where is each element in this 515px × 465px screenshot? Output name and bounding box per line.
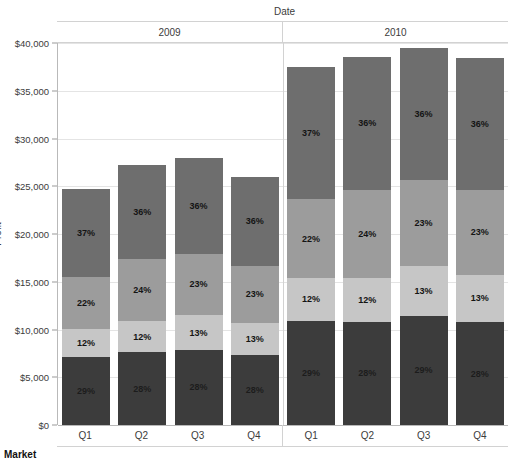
bar-segment-segment-2[interactable]: 13% <box>231 323 279 355</box>
bar-segment-segment-2[interactable]: 13% <box>456 275 504 323</box>
y-axis: Profit $0$5,000$10,000$15,000$20,000$25,… <box>0 43 57 425</box>
year-header-label: 2009 <box>158 27 180 38</box>
segment-percent-label: 28% <box>190 382 208 392</box>
y-tick-label: $5,000 <box>20 372 49 383</box>
bar-segment-segment-4[interactable]: 36% <box>231 177 279 266</box>
bar-segment-segment-2[interactable]: 12% <box>287 278 335 321</box>
segment-percent-label: 22% <box>302 234 320 244</box>
stacked-bar-chart: Date 20092010 Profit $0$5,000$10,000$15,… <box>0 0 515 465</box>
bar-segment-segment-3[interactable]: 22% <box>287 199 335 278</box>
bar-segment-segment-1[interactable]: 29% <box>287 321 335 425</box>
bar-segment-segment-3[interactable]: 22% <box>62 277 110 329</box>
segment-percent-label: 28% <box>471 369 489 379</box>
x-tick-2009-Q1[interactable]: Q1 <box>57 425 113 446</box>
segment-percent-label: 12% <box>358 295 376 305</box>
bar-segment-segment-3[interactable]: 24% <box>343 190 391 278</box>
x-tick-2010-Q1[interactable]: Q1 <box>283 425 339 446</box>
bar-2010-Q1[interactable]: 37%22%12%29% <box>287 67 335 425</box>
bar-segment-segment-3[interactable]: 23% <box>231 266 279 323</box>
segment-percent-label: 37% <box>77 228 95 238</box>
bar-segment-segment-1[interactable]: 28% <box>231 355 279 425</box>
year-header-2010[interactable]: 2010 <box>282 22 508 42</box>
y-tick-label: $30,000 <box>15 133 49 144</box>
date-field-label: Date <box>0 6 515 17</box>
bar-2009-Q1[interactable]: 37%22%12%29% <box>62 189 110 425</box>
year-group-2010: 37%22%12%29%36%24%12%28%36%23%13%29%36%2… <box>283 43 508 425</box>
segment-percent-label: 13% <box>471 293 489 303</box>
segment-percent-label: 24% <box>358 229 376 239</box>
x-tick-2009-Q4[interactable]: Q4 <box>226 425 282 446</box>
bar-segment-segment-2[interactable]: 12% <box>62 329 110 357</box>
segment-percent-label: 37% <box>302 128 320 138</box>
x-tick-2009-Q3[interactable]: Q3 <box>170 425 226 446</box>
bar-segment-segment-3[interactable]: 24% <box>118 259 166 322</box>
segment-percent-label: 13% <box>190 328 208 338</box>
bar-2009-Q4[interactable]: 36%23%13%28% <box>231 177 279 425</box>
segment-percent-label: 23% <box>471 227 489 237</box>
segment-percent-label: 29% <box>302 368 320 378</box>
y-tick-label: $0 <box>38 420 49 431</box>
segment-percent-label: 36% <box>471 119 489 129</box>
bar-segment-segment-4[interactable]: 36% <box>343 57 391 189</box>
bar-segment-segment-2[interactable]: 12% <box>343 278 391 322</box>
bar-segment-segment-2[interactable]: 12% <box>118 321 166 352</box>
bar-segment-segment-1[interactable]: 29% <box>62 357 110 425</box>
segment-percent-label: 36% <box>190 201 208 211</box>
segment-percent-label: 23% <box>190 279 208 289</box>
bar-2009-Q2[interactable]: 36%24%12%28% <box>118 165 166 425</box>
segment-percent-label: 12% <box>302 294 320 304</box>
segment-percent-label: 13% <box>415 286 433 296</box>
bar-segment-segment-2[interactable]: 13% <box>175 315 223 350</box>
bar-segment-segment-4[interactable]: 36% <box>456 58 504 190</box>
bar-2010-Q4[interactable]: 36%23%13%28% <box>456 58 504 425</box>
bar-segment-segment-4[interactable]: 37% <box>62 189 110 276</box>
x-year-group-2009: Q1Q2Q3Q4 <box>57 425 282 446</box>
date-field-label-text: Date <box>274 6 295 17</box>
bar-slot: 36%23%13%28% <box>171 43 227 425</box>
year-header-2009[interactable]: 2009 <box>57 22 282 42</box>
bar-2009-Q3[interactable]: 36%23%13%28% <box>175 158 223 425</box>
segment-percent-label: 36% <box>246 216 264 226</box>
x-axis: Q1Q2Q3Q4Q1Q2Q3Q4 <box>57 425 508 447</box>
bar-segment-segment-4[interactable]: 36% <box>175 158 223 254</box>
segment-percent-label: 13% <box>246 334 264 344</box>
y-tick-label: $10,000 <box>15 324 49 335</box>
segment-percent-label: 28% <box>358 368 376 378</box>
bar-2010-Q3[interactable]: 36%23%13%29% <box>400 48 448 425</box>
segment-percent-label: 24% <box>133 285 151 295</box>
bar-segment-segment-3[interactable]: 23% <box>175 254 223 316</box>
bar-slot: 36%24%12%28% <box>339 43 395 425</box>
bar-slot: 36%24%12%28% <box>114 43 170 425</box>
bar-slot: 37%22%12%29% <box>58 43 114 425</box>
plot-area: 37%22%12%29%36%24%12%28%36%23%13%28%36%2… <box>57 43 508 425</box>
bar-segment-segment-3[interactable]: 23% <box>400 180 448 267</box>
x-year-group-2010: Q1Q2Q3Q4 <box>282 425 508 446</box>
bar-segment-segment-2[interactable]: 13% <box>400 266 448 315</box>
x-tick-2009-Q2[interactable]: Q2 <box>113 425 169 446</box>
x-tick-2010-Q2[interactable]: Q2 <box>339 425 395 446</box>
bar-2010-Q2[interactable]: 36%24%12%28% <box>343 57 391 425</box>
segment-percent-label: 23% <box>415 218 433 228</box>
segment-percent-label: 29% <box>415 365 433 375</box>
y-tick-label: $25,000 <box>15 181 49 192</box>
bar-segment-segment-1[interactable]: 28% <box>456 322 504 425</box>
segment-percent-label: 28% <box>246 385 264 395</box>
year-header-label: 2010 <box>384 27 406 38</box>
bar-segment-segment-1[interactable]: 28% <box>343 322 391 425</box>
segment-percent-label: 29% <box>77 386 95 396</box>
bar-segment-segment-4[interactable]: 37% <box>287 67 335 199</box>
bar-segment-segment-1[interactable]: 28% <box>175 350 223 425</box>
bar-slot: 37%22%12%29% <box>283 43 339 425</box>
bar-segment-segment-1[interactable]: 29% <box>400 316 448 425</box>
bar-slot: 36%23%13%28% <box>227 43 283 425</box>
y-tick-label: $15,000 <box>15 276 49 287</box>
x-tick-2010-Q3[interactable]: Q3 <box>396 425 452 446</box>
bar-segment-segment-4[interactable]: 36% <box>400 48 448 180</box>
bar-segment-segment-3[interactable]: 23% <box>456 190 504 275</box>
bar-segment-segment-4[interactable]: 36% <box>118 165 166 259</box>
y-tick-label: $20,000 <box>15 229 49 240</box>
bar-segment-segment-1[interactable]: 28% <box>118 352 166 425</box>
y-tick-label: $35,000 <box>15 85 49 96</box>
x-tick-2010-Q4[interactable]: Q4 <box>452 425 508 446</box>
bar-slot: 36%23%13%29% <box>396 43 452 425</box>
